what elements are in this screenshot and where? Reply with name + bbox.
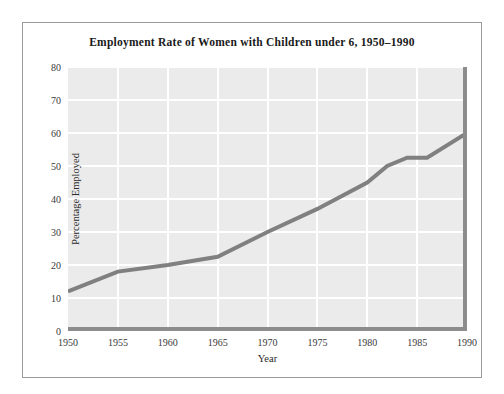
y-tick-label: 70 (51, 95, 61, 106)
x-axis-line (68, 327, 467, 331)
y-tick-label: 30 (51, 227, 61, 238)
y-tick-label: 80 (51, 62, 61, 73)
data-line-svg (68, 67, 467, 331)
plot-area (68, 67, 467, 331)
x-tick-label: 1970 (258, 337, 278, 348)
y-tick-label: 10 (51, 293, 61, 304)
y-axis-label: Percentage Employed (70, 153, 81, 245)
x-tick-label: 1965 (208, 337, 228, 348)
y-tick-label: 40 (51, 194, 61, 205)
y-tick-label: 50 (51, 161, 61, 172)
y-tick-label: 60 (51, 128, 61, 139)
figure-frame: Employment Rate of Women with Children u… (22, 22, 482, 378)
x-tick-label: 1985 (407, 337, 427, 348)
x-axis-label: Year (68, 353, 467, 364)
right-axis-line (463, 67, 467, 331)
y-tick-label: 0 (56, 326, 61, 337)
x-tick-label: 1955 (108, 337, 128, 348)
chart-title: Employment Rate of Women with Children u… (23, 36, 481, 48)
x-tick-label: 1950 (58, 337, 78, 348)
x-tick-label: 1960 (158, 337, 178, 348)
x-tick-label: 1975 (307, 337, 327, 348)
plot-region: 01020304050607080 1950195519601965197019… (68, 67, 467, 331)
data-line-series (68, 133, 467, 291)
x-tick-label: 1980 (357, 337, 377, 348)
x-tick-label: 1990 (457, 337, 477, 348)
y-tick-label: 20 (51, 260, 61, 271)
